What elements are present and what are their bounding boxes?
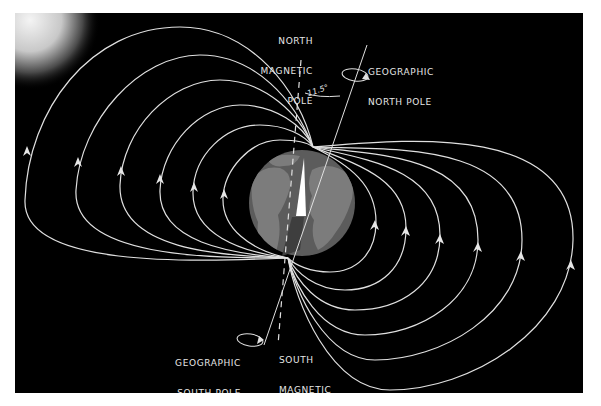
earth-globe [249,150,355,256]
label-south-magnetic-pole: SOUTH MAGNETIC POLE [279,335,331,393]
field-arrows-right [370,220,575,270]
label-north-magnetic-pole: NORTH MAGNETIC POLE [241,16,313,126]
sun-glow [15,13,105,95]
rotation-arrow-north-icon [341,67,370,83]
diagram-panel: NORTH MAGNETIC POLE GEOGRAPHIC NORTH POL… [15,13,583,393]
label-geographic-south-pole: GEOGRAPHIC SOUTH POLE [165,338,241,393]
label-geographic-north-pole: GEOGRAPHIC NORTH POLE [368,47,434,127]
